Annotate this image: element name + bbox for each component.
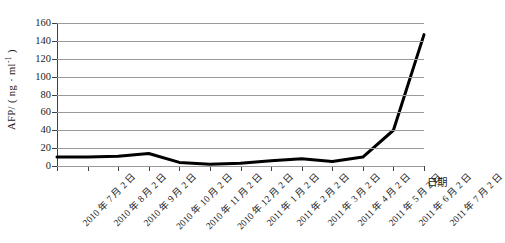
y-axis-tick-label: 100 bbox=[35, 71, 51, 82]
gridline bbox=[57, 112, 424, 113]
x-axis-tick-mark bbox=[363, 167, 364, 171]
gridline bbox=[57, 130, 424, 131]
y-axis-tick-labels: 020406080100120140160 bbox=[18, 0, 54, 178]
gridline bbox=[57, 95, 424, 96]
y-axis-title-main: AFP/ ( ng · ml bbox=[6, 63, 17, 130]
x-axis-tick-mark bbox=[88, 167, 89, 171]
y-axis-tick-mark bbox=[52, 23, 57, 24]
y-axis-tick-label: 120 bbox=[35, 54, 51, 65]
plot-area bbox=[57, 23, 424, 166]
y-axis-tick-mark bbox=[52, 112, 57, 113]
x-axis-tick-mark bbox=[149, 167, 150, 171]
y-axis-tick-mark bbox=[52, 41, 57, 42]
y-axis-title-superscript: -1 bbox=[4, 56, 13, 63]
gridline bbox=[57, 23, 424, 24]
x-axis-tick-mark bbox=[393, 167, 394, 171]
y-axis-tick-label: 80 bbox=[41, 89, 52, 100]
y-axis-tick-mark bbox=[52, 77, 57, 78]
x-axis-tick-label: 2010 年 7 月 2 日 bbox=[82, 172, 138, 228]
y-axis-tick-mark bbox=[52, 130, 57, 131]
gridline bbox=[57, 148, 424, 149]
gridline bbox=[57, 77, 424, 78]
x-axis-tick-mark bbox=[424, 167, 425, 171]
gridline bbox=[57, 41, 424, 42]
x-axis-tick-mark bbox=[179, 167, 180, 171]
y-axis-tick-label: 20 bbox=[41, 143, 52, 154]
y-axis-title-tail: ) bbox=[6, 49, 17, 56]
gridline bbox=[57, 59, 424, 60]
y-axis-tick-mark bbox=[52, 148, 57, 149]
x-axis-tick-mark bbox=[302, 167, 303, 171]
y-axis-tick-label: 160 bbox=[35, 18, 51, 29]
y-axis-tick-label: 40 bbox=[41, 125, 52, 136]
x-axis-tick-mark bbox=[118, 167, 119, 171]
y-axis-tick-label: 60 bbox=[41, 107, 52, 118]
y-axis-tick-mark bbox=[52, 95, 57, 96]
x-axis-tick-label: 2010 年 11 月 2 日 bbox=[205, 172, 265, 232]
y-axis-tick-mark bbox=[52, 59, 57, 60]
x-axis-tick-mark bbox=[57, 167, 58, 171]
x-axis-tick-mark bbox=[332, 167, 333, 171]
x-axis-tick-mark bbox=[241, 167, 242, 171]
y-axis-tick-label: 0 bbox=[46, 161, 51, 172]
x-axis-tick-mark bbox=[210, 167, 211, 171]
y-axis-tick-label: 140 bbox=[35, 36, 51, 47]
x-axis-tick-mark bbox=[271, 167, 272, 171]
